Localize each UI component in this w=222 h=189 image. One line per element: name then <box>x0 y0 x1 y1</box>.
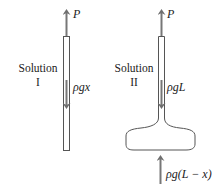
force-label-rhog-L-minus-x: ρg(L − x) <box>166 168 212 180</box>
force-label-P-1: P <box>73 8 80 20</box>
solution-2-title-line2: II <box>110 76 158 88</box>
solution-1-title: Solution I <box>14 62 62 88</box>
force-label-rhogL: ρgL <box>167 81 185 93</box>
force-label-P-2: P <box>167 8 174 20</box>
solution-2-title-line1: Solution <box>110 62 158 74</box>
free-body-diagrams <box>0 0 222 189</box>
solution-1-title-line2: I <box>14 76 62 88</box>
force-label-rhogx: ρgx <box>73 81 90 93</box>
solution-2-title: Solution II <box>110 62 158 88</box>
solution-1-title-line1: Solution <box>14 62 62 74</box>
